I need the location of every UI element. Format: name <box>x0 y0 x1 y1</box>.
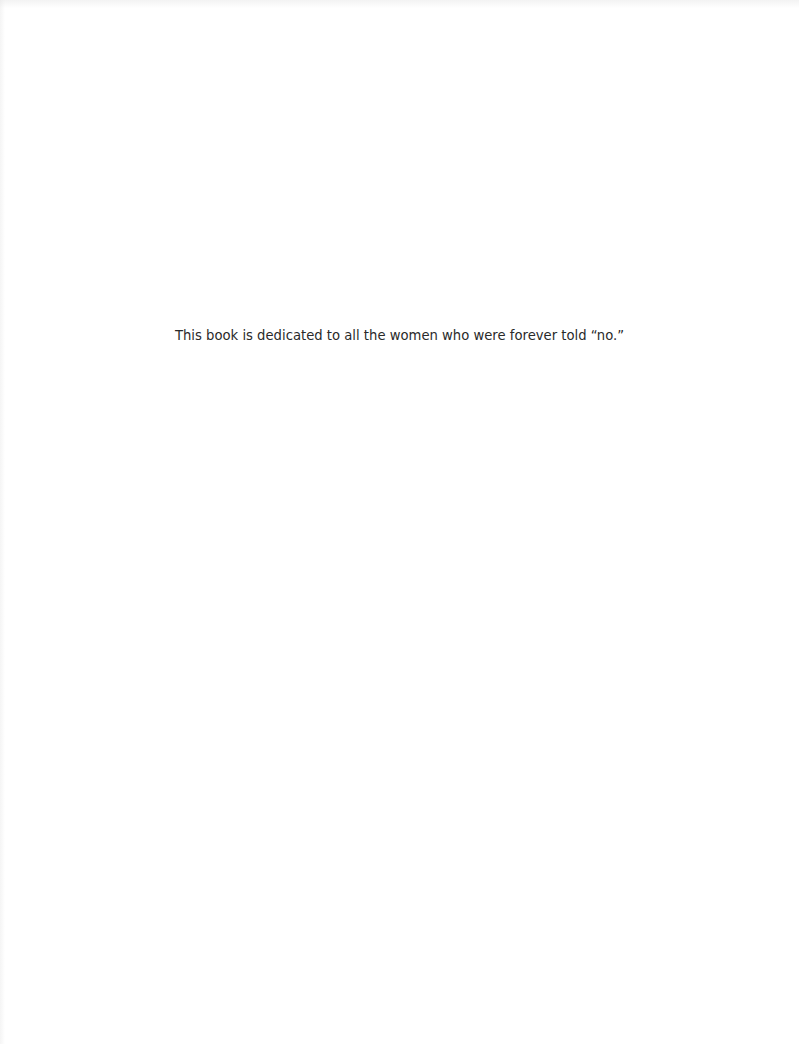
book-page: This book is dedicated to all the women … <box>0 0 799 1044</box>
dedication-text: This book is dedicated to all the women … <box>0 328 799 344</box>
scan-edge-artifact-top <box>0 0 799 8</box>
scan-edge-artifact-left <box>0 0 5 1044</box>
